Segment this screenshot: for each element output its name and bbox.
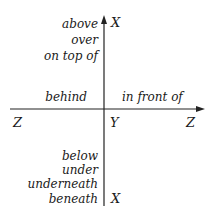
- word-below: below: [62, 149, 98, 163]
- word-on-top-of: on top of: [44, 49, 98, 63]
- word-in-front-of: in front of: [122, 90, 183, 104]
- word-over: over: [71, 33, 98, 47]
- right-arrow-icon: [196, 106, 205, 112]
- word-underneath: underneath: [27, 177, 98, 191]
- word-beneath: beneath: [49, 192, 98, 206]
- z-axis-label-right: Z: [186, 116, 195, 130]
- x-axis-label-top: X: [111, 16, 120, 30]
- up-arrow-icon: [101, 15, 107, 24]
- word-behind: behind: [45, 90, 87, 104]
- x-axis-label-bottom: X: [111, 192, 120, 206]
- y-origin-label: Y: [110, 116, 119, 130]
- z-axis-label-left: Z: [13, 116, 22, 130]
- word-under: under: [62, 163, 98, 177]
- word-above: above: [62, 17, 98, 31]
